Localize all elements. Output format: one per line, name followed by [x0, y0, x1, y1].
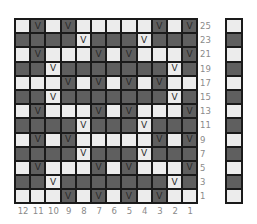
slip-stitch-v-icon: V [35, 107, 41, 116]
chart-cell [15, 161, 30, 175]
chart-cell [30, 90, 45, 104]
chart-cell: V [152, 19, 167, 33]
chart-cell [76, 90, 91, 104]
chart-cell [137, 161, 152, 175]
chart-cell [121, 147, 136, 161]
legend-color-cell [226, 175, 242, 189]
chart-cell: V [167, 175, 182, 189]
chart-cell [121, 19, 136, 33]
chart-cell [137, 19, 152, 33]
chart-cell [121, 33, 136, 47]
legend-color-cell [226, 133, 242, 147]
chart-cell [91, 118, 106, 132]
chart-cell: V [91, 104, 106, 118]
column-label: 10 [46, 206, 61, 216]
chart-cell: V [137, 33, 152, 47]
chart-cell [137, 104, 152, 118]
chart-cell [15, 118, 30, 132]
chart-cell: V [76, 33, 91, 47]
slip-stitch-v-icon: V [126, 78, 132, 87]
slip-stitch-v-icon: V [95, 107, 101, 116]
slip-stitch-v-icon: V [141, 36, 147, 45]
chart-cell: V [152, 189, 167, 203]
chart-cell: V [30, 133, 45, 147]
slip-stitch-v-icon: V [141, 149, 147, 158]
column-label: 3 [152, 206, 167, 216]
slip-stitch-v-icon: V [141, 121, 147, 130]
chart-cell: V [45, 175, 60, 189]
chart-cell [152, 147, 167, 161]
chart-cell [30, 76, 45, 90]
row-label: 5 [200, 163, 214, 173]
legend-color-cell [226, 104, 242, 118]
chart-cell [45, 76, 60, 90]
chart-cell: V [137, 118, 152, 132]
slip-stitch-v-icon: V [95, 163, 101, 172]
chart-cell [152, 161, 167, 175]
column-label: 9 [61, 206, 76, 216]
chart-cell: V [30, 19, 45, 33]
row-label: 13 [200, 106, 214, 116]
slip-stitch-v-icon: V [126, 163, 132, 172]
chart-cell [76, 175, 91, 189]
legend-color-cell [226, 33, 242, 47]
chart-cell [91, 90, 106, 104]
legend-color-cell [226, 147, 242, 161]
column-label: 5 [122, 206, 137, 216]
chart-cell [91, 175, 106, 189]
chart-cell [76, 76, 91, 90]
slip-stitch-v-icon: V [95, 50, 101, 59]
chart-cell: V [30, 104, 45, 118]
chart-cell [182, 33, 197, 47]
chart-cell: V [91, 161, 106, 175]
chart-cell [76, 47, 91, 61]
legend-color-cell [226, 19, 242, 33]
column-label: 4 [137, 206, 152, 216]
chart-cell [45, 47, 60, 61]
chart-cell [152, 33, 167, 47]
chart-cell [152, 90, 167, 104]
chart-cell [76, 62, 91, 76]
chart-cell [106, 133, 121, 147]
chart-cell [15, 47, 30, 61]
chart-cell: V [121, 104, 136, 118]
slip-stitch-v-icon: V [156, 135, 162, 144]
chart-cell: V [76, 147, 91, 161]
chart-cell [167, 147, 182, 161]
chart-cell [167, 133, 182, 147]
chart-cell [106, 175, 121, 189]
chart-cell [182, 76, 197, 90]
chart-cell [152, 62, 167, 76]
slip-stitch-v-icon: V [95, 78, 101, 87]
chart-cell: V [91, 189, 106, 203]
chart-cell [182, 175, 197, 189]
chart-cell: V [121, 47, 136, 61]
chart-cell [167, 33, 182, 47]
chart-cell: V [91, 47, 106, 61]
chart-cell [106, 62, 121, 76]
slip-stitch-v-icon: V [187, 135, 193, 144]
chart-cell: V [152, 133, 167, 147]
chart-cell: V [121, 189, 136, 203]
chart-cell [182, 62, 197, 76]
chart-cell: V [61, 133, 76, 147]
chart-cell [15, 90, 30, 104]
chart-cell: V [167, 90, 182, 104]
column-label: 8 [76, 206, 91, 216]
chart-cell [121, 90, 136, 104]
row-label: 11 [200, 120, 214, 130]
chart-cell [15, 19, 30, 33]
chart-cell: V [121, 161, 136, 175]
chart-cell [137, 175, 152, 189]
slip-stitch-v-icon: V [171, 178, 177, 187]
column-label: 7 [92, 206, 107, 216]
slip-stitch-v-icon: V [35, 50, 41, 59]
slip-stitch-v-icon: V [156, 192, 162, 201]
chart-cell [182, 90, 197, 104]
chart-cell: V [61, 19, 76, 33]
chart-cell [30, 189, 45, 203]
chart-cell [167, 104, 182, 118]
chart-cell [167, 19, 182, 33]
legend-color-cell [226, 161, 242, 175]
chart-cell: V [137, 147, 152, 161]
